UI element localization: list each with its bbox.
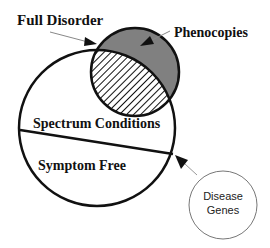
disease-genes-arrowhead-icon xyxy=(175,155,188,169)
label-spectrum-conditions: Spectrum Conditions xyxy=(33,116,161,131)
label-full-disorder: Full Disorder xyxy=(17,12,104,28)
venn-diagram: Full Disorder Phenocopies Spectrum Condi… xyxy=(0,0,270,248)
label-phenocopies: Phenocopies xyxy=(174,25,248,40)
label-symptom-free: Symptom Free xyxy=(38,158,126,173)
divider-line xyxy=(20,130,173,154)
label-genes: Genes xyxy=(207,204,240,216)
full-disorder-arrowhead-icon xyxy=(84,37,97,46)
disease-genes-arrow xyxy=(185,164,197,175)
label-disease: Disease xyxy=(203,190,243,202)
full-disorder-arrow xyxy=(50,32,88,42)
